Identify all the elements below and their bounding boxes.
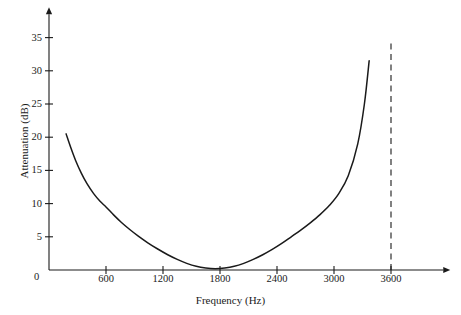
plot-area — [0, 0, 461, 315]
attenuation-vs-frequency-chart: 5101520253035 60012001800240030003600 0 … — [0, 0, 461, 315]
x-tick-label: 2400 — [267, 274, 288, 285]
y-axis-arrowhead — [46, 7, 52, 14]
y-tick-label: 5 — [14, 232, 42, 243]
y-tick-label: 35 — [14, 32, 42, 43]
x-tick-label: 3000 — [324, 274, 345, 285]
axes-group — [46, 7, 450, 273]
y-axis-title: Attenuation (dB) — [18, 81, 30, 201]
y-tick-label: 30 — [14, 66, 42, 77]
series-curve-attenuation — [66, 61, 369, 269]
x-tick-label: 1800 — [210, 274, 231, 285]
tick-marks-group — [45, 38, 391, 274]
x-tick-label: 3600 — [381, 274, 402, 285]
x-tick-label: 600 — [98, 274, 114, 285]
data-series-group — [66, 61, 369, 269]
origin-tick-label: 0 — [34, 272, 39, 283]
x-axis-title: Frequency (Hz) — [0, 294, 461, 306]
x-tick-label: 1200 — [153, 274, 174, 285]
x-axis-arrowhead — [443, 267, 450, 273]
